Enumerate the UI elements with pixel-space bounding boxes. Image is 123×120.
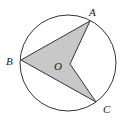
label-o: O <box>54 60 62 72</box>
geometry-diagram: A B C O <box>0 0 123 120</box>
label-c: C <box>103 103 111 115</box>
label-b: B <box>6 55 13 67</box>
label-a: A <box>88 6 96 18</box>
